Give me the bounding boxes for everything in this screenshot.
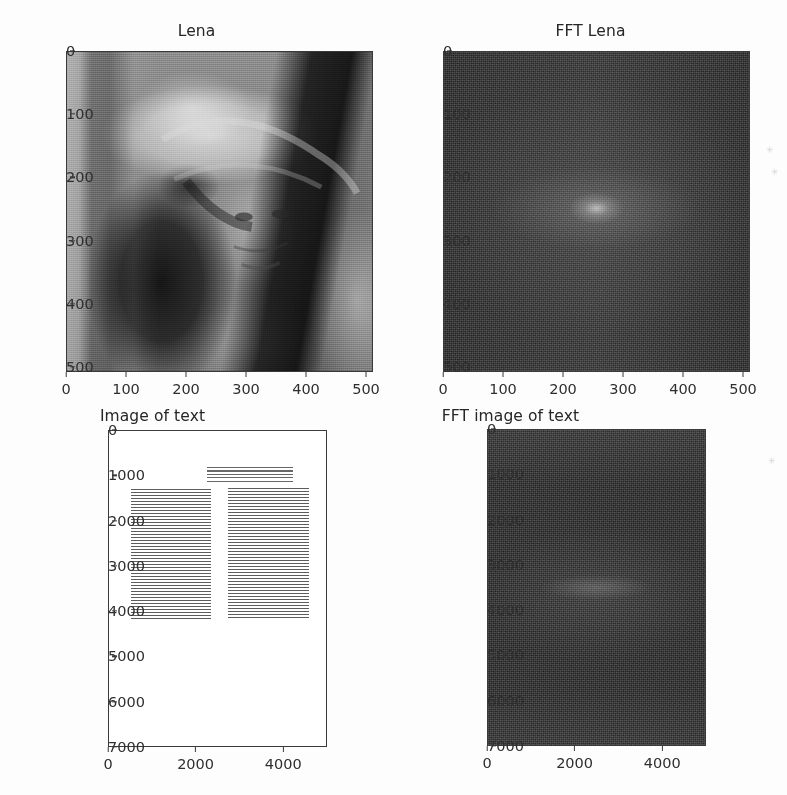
fft-lena-xtick: 100 [489,372,517,397]
panel-image-of-text-title: Image of text [0,407,349,425]
image-of-text-ytick: 3000 [108,558,117,574]
lena-xtick: 0 [61,372,70,397]
fft-image-of-text-ytick: 3000 [487,557,496,573]
panel-fft-lena: FFT Lena 0 100 200 300 400 500 0 100 200… [394,0,787,398]
fft-image-of-text-ytick: 6000 [487,693,496,709]
lena-ytick: 200 [66,169,75,185]
lena-xtick: 300 [232,372,260,397]
lena-ytick: 100 [66,106,75,122]
fft-lena-xtick: 300 [609,372,637,397]
image-of-text-xtick: 4000 [265,747,302,772]
image-of-text-xtick: 0 [103,747,112,772]
fft-lena-xtick: 0 [438,372,447,397]
lena-axes [66,51,373,372]
fft-image-of-text-xtick: 2000 [556,746,593,771]
fft-lena-xtick: 200 [549,372,577,397]
fft-image-of-text-ytick: 4000 [487,602,496,618]
panel-lena-title: Lena [0,22,393,40]
fft-lena-xtick: 500 [729,372,757,397]
scan-artifact-speck: ✳ [771,168,779,177]
panel-fft-lena-title: FFT Lena [394,22,787,40]
matplotlib-figure: Lena 0 100 200 300 400 500 0 100 200 300… [0,0,787,795]
scan-artifact-speck: ✳ [768,457,776,466]
fft-lena-ytick: 200 [443,169,452,185]
lena-xtick: 400 [292,372,320,397]
text-header-block [207,467,294,483]
image-of-text-xtick: 2000 [177,747,214,772]
fft-image-of-text-xtick: 0 [482,746,491,771]
panel-lena: Lena 0 100 200 300 400 500 0 100 200 300… [0,0,393,398]
fft-image-of-text-ytick: 1000 [487,466,496,482]
fft-image-of-text-ytick: 0 [487,421,496,437]
lena-image [67,52,372,371]
fft-image-of-text-ytick: 5000 [487,647,496,663]
image-of-text-ytick: 4000 [108,603,117,619]
image-of-text-ytick: 6000 [108,694,117,710]
fft-lena-axes [443,51,750,372]
image-of-text-ytick: 1000 [108,467,117,483]
fft-lena-image [444,52,749,371]
panel-fft-image-of-text: FFT image of text 0 1000 2000 3000 4000 … [394,398,787,795]
text-column-left [131,489,211,620]
lena-ytick: 0 [66,43,75,59]
scan-artifact-speck: ✳ [766,146,774,155]
fft-lena-ytick: 100 [443,106,452,122]
image-of-text-ytick: 0 [108,422,117,438]
lena-ytick: 400 [66,296,75,312]
fft-lena-ytick: 300 [443,233,452,249]
fft-lena-ytick: 400 [443,296,452,312]
fft-image-of-text-xtick: 4000 [644,746,681,771]
panel-image-of-text: Image of text 0 1000 2000 3000 4000 5000… [0,398,393,795]
image-of-text-ytick: 2000 [108,513,117,529]
fft-image-of-text-ytick: 2000 [487,512,496,528]
fft-lena-ytick: 0 [443,43,452,59]
panel-fft-image-of-text-title: FFT image of text [314,407,707,425]
lena-xtick: 500 [352,372,380,397]
lena-ytick: 300 [66,233,75,249]
lena-xtick: 100 [112,372,140,397]
text-column-right [228,488,308,620]
fft-lena-xtick: 400 [669,372,697,397]
lena-xtick: 200 [172,372,200,397]
image-of-text-ytick: 5000 [108,648,117,664]
